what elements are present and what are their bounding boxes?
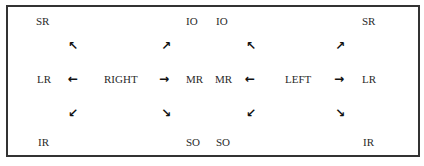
label-left-center: LEFT (285, 73, 311, 85)
arrow-up-right-icon: ↗ (161, 40, 171, 52)
arrow-right-icon: → (334, 73, 344, 85)
arrow-down-left-icon: ↙ (246, 107, 256, 119)
label-right-bottom-left: IR (38, 136, 49, 148)
label-right-center: RIGHT (104, 73, 138, 85)
arrow-down-right-icon: ↘ (335, 107, 345, 119)
label-left-bottom-left: SO (216, 136, 230, 148)
label-right-top-left: SR (36, 15, 49, 27)
label-right-top-right: IO (186, 15, 198, 27)
label-left-bottom-right: IR (363, 136, 374, 148)
label-right-mid-left: LR (37, 73, 51, 85)
label-left-mid-left: MR (215, 73, 232, 85)
label-right-mid-right: MR (186, 73, 203, 85)
label-left-mid-right: LR (362, 73, 376, 85)
label-left-top-left: IO (216, 15, 228, 27)
arrow-up-right-icon: ↗ (335, 40, 345, 52)
arrow-left-icon: ← (245, 73, 255, 85)
arrow-down-left-icon: ↙ (68, 107, 78, 119)
label-right-bottom-right: SO (186, 136, 200, 148)
arrow-down-right-icon: ↘ (161, 107, 171, 119)
arrow-up-left-icon: ↖ (246, 40, 256, 52)
arrow-right-icon: → (159, 73, 169, 85)
label-left-top-right: SR (362, 15, 375, 27)
arrow-up-left-icon: ↖ (68, 40, 78, 52)
arrow-left-icon: ← (68, 73, 78, 85)
